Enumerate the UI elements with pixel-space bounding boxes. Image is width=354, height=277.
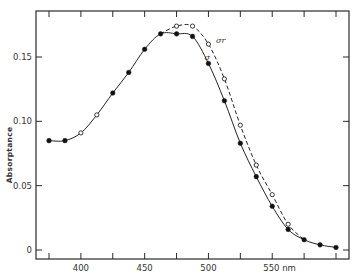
x-tick-label: 500 [200,263,216,273]
axis-tick-labels: 400450500550 nm00.050.100.15 [13,52,296,273]
data-point [222,77,226,81]
data-point [63,138,68,143]
y-tick-label: 0.15 [13,52,32,62]
data-point [286,222,290,226]
data-point [47,138,52,143]
data-point [254,163,258,167]
data-point [158,32,163,37]
absorptance-spectrum-chart: 400450500550 nm00.050.100.15 Absorptance… [0,0,354,277]
data-point [286,227,291,232]
data-point [190,24,194,28]
series-label-sigma-r: σr [216,36,226,45]
data-point [206,42,210,46]
data-point [270,204,275,209]
data-point [95,113,99,117]
data-point [222,98,227,103]
plot-frame [36,11,349,259]
y-tick-label: 0.05 [13,181,32,191]
data-point [238,141,243,146]
data-point [190,34,195,39]
data-point [174,32,179,37]
x-tick-label: 450 [137,263,153,273]
data-point [110,91,115,96]
data-point [174,24,178,28]
data-point [79,131,83,135]
data-point [270,193,274,197]
data-point [318,243,323,248]
axis-ticks [36,11,349,259]
series-lines [49,24,336,247]
y-axis-title: Absorptance [5,127,14,184]
data-point [238,123,242,127]
data-point [302,237,307,242]
x-tick-label: 400 [73,263,89,273]
series-line-sigma [49,33,336,248]
data-point [334,245,339,250]
y-tick-label: 0.10 [13,116,32,126]
series-markers [47,24,339,250]
data-point [254,174,259,179]
data-point [206,61,211,66]
y-tick-label: 0 [27,245,32,255]
data-point [142,47,147,52]
x-tick-label: 550 nm [263,263,296,273]
series-label-sigma: σ [205,53,211,62]
series-line-sigma-r [161,24,305,239]
data-point [126,70,131,75]
